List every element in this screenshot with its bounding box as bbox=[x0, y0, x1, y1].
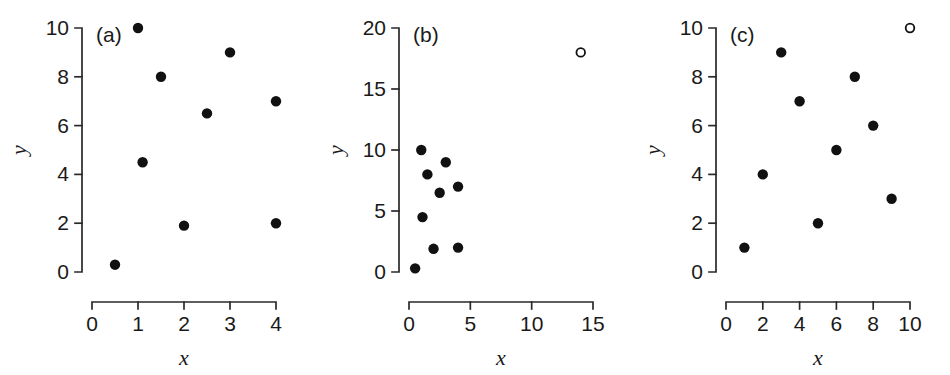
panel-a-plot: 0246810y01234x(a) bbox=[0, 0, 316, 375]
data-point bbox=[137, 157, 147, 167]
x-axis-title: x bbox=[178, 345, 189, 370]
y-tick-label: 6 bbox=[691, 114, 703, 137]
outlier-series bbox=[576, 48, 585, 57]
panel-tag: (b) bbox=[413, 23, 439, 46]
data-point bbox=[179, 220, 189, 230]
x-tick-label: 2 bbox=[178, 312, 190, 335]
data-point bbox=[417, 212, 427, 222]
y-tick-label: 0 bbox=[691, 260, 703, 283]
y-axis: 05101520 bbox=[363, 16, 399, 283]
y-axis: 0246810 bbox=[680, 16, 716, 283]
data-point bbox=[422, 169, 432, 179]
data-point bbox=[441, 157, 451, 167]
y-tick-label: 10 bbox=[680, 16, 703, 39]
y-tick-label: 20 bbox=[363, 16, 386, 39]
x-axis: 051015 bbox=[403, 302, 605, 335]
y-tick-label: 5 bbox=[374, 199, 386, 222]
data-point bbox=[886, 194, 896, 204]
panel-b: 05101520y051015x(b) bbox=[317, 0, 633, 375]
data-point bbox=[453, 242, 463, 252]
x-tick-label: 6 bbox=[831, 312, 843, 335]
data-point bbox=[110, 259, 120, 269]
data-point bbox=[850, 72, 860, 82]
data-point bbox=[813, 218, 823, 228]
panel-c-plot: 0246810y0246810x(c) bbox=[634, 0, 950, 375]
x-axis: 01234 bbox=[86, 302, 282, 335]
data-point bbox=[133, 23, 143, 33]
x-tick-label: 0 bbox=[720, 312, 732, 335]
data-point bbox=[868, 120, 878, 130]
data-series bbox=[110, 23, 281, 270]
x-tick-label: 4 bbox=[794, 312, 806, 335]
data-point bbox=[453, 181, 463, 191]
y-tick-label: 4 bbox=[691, 162, 703, 185]
x-tick-label: 3 bbox=[224, 312, 236, 335]
data-point bbox=[794, 96, 804, 106]
x-tick-label: 10 bbox=[520, 312, 543, 335]
x-tick-label: 4 bbox=[270, 312, 282, 335]
y-axis-title: y bbox=[640, 145, 665, 157]
data-point bbox=[271, 96, 281, 106]
x-axis-title: x bbox=[495, 345, 506, 370]
y-tick-label: 6 bbox=[57, 114, 69, 137]
x-tick-label: 0 bbox=[403, 312, 415, 335]
data-point bbox=[416, 145, 426, 155]
data-point bbox=[202, 108, 212, 118]
y-tick-label: 0 bbox=[57, 260, 69, 283]
x-axis: 0246810 bbox=[720, 302, 922, 335]
y-tick-label: 2 bbox=[691, 211, 703, 234]
panel-tag: (a) bbox=[96, 23, 122, 46]
x-tick-label: 5 bbox=[464, 312, 476, 335]
data-series bbox=[739, 47, 897, 253]
outlier-point bbox=[576, 48, 585, 57]
panel-tag: (c) bbox=[730, 23, 755, 46]
y-tick-label: 8 bbox=[691, 65, 703, 88]
x-axis-title: x bbox=[812, 345, 823, 370]
y-tick-label: 8 bbox=[57, 65, 69, 88]
x-tick-label: 1 bbox=[132, 312, 144, 335]
y-axis-title: y bbox=[6, 145, 31, 157]
y-tick-label: 10 bbox=[363, 138, 386, 161]
data-point bbox=[410, 263, 420, 273]
panel-c: 0246810y0246810x(c) bbox=[634, 0, 950, 375]
y-axis-title: y bbox=[323, 145, 348, 157]
data-point bbox=[776, 47, 786, 57]
outlier-point bbox=[906, 24, 915, 33]
x-tick-label: 8 bbox=[867, 312, 879, 335]
x-tick-label: 15 bbox=[581, 312, 604, 335]
y-axis: 0246810 bbox=[46, 16, 82, 283]
x-tick-label: 10 bbox=[898, 312, 921, 335]
data-point bbox=[831, 145, 841, 155]
data-point bbox=[271, 218, 281, 228]
data-point bbox=[739, 242, 749, 252]
data-series bbox=[410, 145, 463, 274]
panel-b-plot: 05101520y051015x(b) bbox=[317, 0, 633, 375]
data-point bbox=[156, 72, 166, 82]
x-tick-label: 2 bbox=[757, 312, 769, 335]
data-point bbox=[758, 169, 768, 179]
x-tick-label: 0 bbox=[86, 312, 98, 335]
scatter-plot-figure: 0246810y01234x(a) 05101520y051015x(b) 02… bbox=[0, 0, 950, 375]
data-point bbox=[428, 244, 438, 254]
panel-a: 0246810y01234x(a) bbox=[0, 0, 316, 375]
y-tick-label: 4 bbox=[57, 162, 69, 185]
outlier-series bbox=[906, 24, 915, 33]
y-tick-label: 15 bbox=[363, 77, 386, 100]
y-tick-label: 2 bbox=[57, 211, 69, 234]
data-point bbox=[225, 47, 235, 57]
data-point bbox=[434, 188, 444, 198]
y-tick-label: 0 bbox=[374, 260, 386, 283]
y-tick-label: 10 bbox=[46, 16, 69, 39]
